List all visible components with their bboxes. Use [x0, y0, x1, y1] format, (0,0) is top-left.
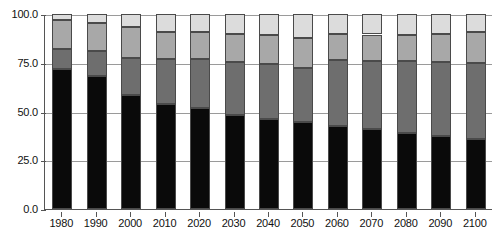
- x-axis-labels: 1980199020002010202020302040205020602070…: [0, 212, 502, 242]
- bar-segment-series-3-1980: [52, 20, 72, 49]
- bar-2040: [259, 14, 279, 209]
- bar-segment-series-2-2010: [156, 59, 176, 104]
- bar-segment-series-2-2050: [293, 68, 313, 123]
- y-tick-mark: [41, 15, 46, 16]
- bar-segment-series-3-2080: [397, 35, 417, 60]
- bar-2100: [466, 14, 486, 209]
- bar-2020: [190, 14, 210, 209]
- y-tick-mark: [41, 113, 46, 114]
- bar-segment-series-4-2070: [362, 14, 382, 34]
- bar-segment-series-3-2030: [225, 34, 245, 62]
- bar-1980: [52, 14, 72, 209]
- bar-segment-series-1-2000: [121, 95, 141, 209]
- bar-segment-series-2-2030: [225, 62, 245, 116]
- bar-segment-series-1-2100: [466, 139, 486, 209]
- bar-segment-series-4-2030: [225, 14, 245, 34]
- bar-2080: [397, 14, 417, 209]
- bar-segment-series-2-1990: [87, 51, 107, 76]
- bar-segment-series-2-1980: [52, 49, 72, 69]
- bar-segment-series-1-2080: [397, 133, 417, 209]
- bar-segment-series-1-1990: [87, 76, 107, 209]
- bar-segment-series-4-2090: [431, 14, 451, 34]
- bar-segment-series-4-2020: [190, 14, 210, 32]
- bar-segment-series-3-2070: [362, 35, 382, 61]
- bar-2050: [293, 14, 313, 209]
- bar-segment-series-3-2010: [156, 32, 176, 59]
- stacked-bar-chart: 100.075.050.025.00.0 1980199020002010202…: [0, 0, 502, 245]
- bar-segment-series-3-1990: [87, 23, 107, 51]
- y-tick-label: 75.0: [17, 57, 38, 69]
- plot-area: [44, 15, 492, 210]
- bar-2070: [362, 14, 382, 209]
- bar-segment-series-1-1980: [52, 69, 72, 209]
- bar-2000: [121, 14, 141, 209]
- bar-segment-series-1-2020: [190, 108, 210, 209]
- bar-segment-series-1-2070: [362, 129, 382, 209]
- bar-2090: [431, 14, 451, 209]
- bar-segment-series-2-2000: [121, 58, 141, 95]
- bar-segment-series-1-2050: [293, 122, 313, 209]
- bar-segment-series-2-2100: [466, 63, 486, 139]
- bar-segment-series-3-2000: [121, 27, 141, 58]
- y-tick-mark: [41, 64, 46, 65]
- y-tick-mark: [41, 210, 46, 211]
- y-tick-label: 100.0: [11, 8, 38, 20]
- bar-1990: [87, 14, 107, 209]
- bar-segment-series-2-2090: [431, 62, 451, 136]
- bars-layer: [45, 15, 492, 209]
- y-tick-mark: [41, 161, 46, 162]
- bar-segment-series-3-2090: [431, 34, 451, 61]
- bar-segment-series-1-2040: [259, 119, 279, 209]
- bar-segment-series-2-2020: [190, 59, 210, 108]
- bar-2060: [328, 14, 348, 209]
- x-tick-label-2100: 2100: [455, 217, 495, 229]
- y-tick-label: 50.0: [17, 106, 38, 118]
- bar-segment-series-4-2100: [466, 14, 486, 32]
- bar-segment-series-3-2040: [259, 35, 279, 63]
- bar-segment-series-1-2090: [431, 136, 451, 209]
- bar-segment-series-2-2060: [328, 60, 348, 126]
- bar-segment-series-2-2040: [259, 64, 279, 120]
- bar-segment-series-1-2010: [156, 104, 176, 209]
- bar-segment-series-4-2000: [121, 14, 141, 27]
- bar-segment-series-3-2060: [328, 34, 348, 60]
- bar-segment-series-4-2060: [328, 14, 348, 34]
- bar-segment-series-1-2030: [225, 115, 245, 209]
- bar-2010: [156, 14, 176, 209]
- bar-segment-series-4-1980: [52, 14, 72, 20]
- bar-segment-series-1-2060: [328, 126, 348, 209]
- bar-segment-series-4-2080: [397, 14, 417, 35]
- bar-segment-series-2-2070: [362, 61, 382, 129]
- y-tick-label: 25.0: [17, 154, 38, 166]
- bar-segment-series-2-2080: [397, 61, 417, 133]
- bar-segment-series-4-1990: [87, 14, 107, 23]
- bar-segment-series-4-2050: [293, 14, 313, 38]
- y-axis-labels: 100.075.050.025.00.0: [0, 0, 38, 245]
- bar-segment-series-4-2040: [259, 14, 279, 35]
- bar-segment-series-3-2050: [293, 38, 313, 67]
- bar-2030: [225, 14, 245, 209]
- bar-segment-series-3-2020: [190, 32, 210, 59]
- bar-segment-series-3-2100: [466, 32, 486, 63]
- bar-segment-series-4-2010: [156, 14, 176, 32]
